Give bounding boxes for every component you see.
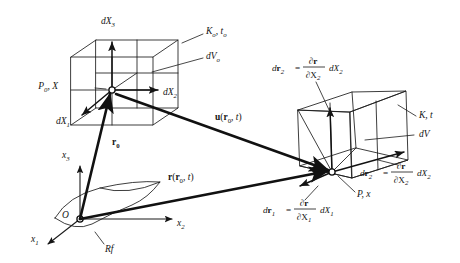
deformation-diagram-canvas: dX3 dX2 dX1 P0, X Ko, to dVo K, t dV P, … [0, 0, 460, 263]
dr2-up-arrow [330, 108, 332, 172]
label-axis-x3: x3 [61, 150, 70, 161]
label-dv: dV [419, 129, 431, 139]
deformed-node-link-1 [298, 110, 332, 172]
eq-upper-numerator: ∂r [309, 56, 318, 66]
eq-lower-trailing: dX2 [417, 168, 431, 179]
eq-lower-lhs: dr2 [360, 168, 373, 179]
eq-dr1-denominator: ∂X1 [297, 212, 312, 223]
cube-edge-tr [153, 40, 178, 57]
reference-point-node [109, 87, 115, 93]
eq-dr1-trailing: dX1 [320, 205, 334, 216]
label-ko-to: Ko, to [205, 26, 227, 37]
leader-rf [95, 232, 104, 244]
eq-lower-equals: = [383, 168, 388, 178]
eq-dr1-lhs: dr1 [263, 205, 275, 216]
label-vector-r: r(r0, t) [168, 172, 194, 183]
label-axis-x1: x1 [30, 234, 39, 245]
equation-dr2-lower: dr2 = ∂r ∂X2 dX2 [360, 161, 431, 186]
eq-lower-numerator: ∂r [397, 161, 406, 171]
leader-dvo [152, 58, 203, 72]
eq-dr1-numerator: ∂r [300, 198, 309, 208]
leader-ko-to [182, 34, 203, 43]
label-dvo: dVo [206, 51, 221, 62]
label-dx2: dX2 [163, 87, 178, 98]
cube-edge-tl [71, 40, 96, 57]
current-point-node [329, 169, 335, 175]
label-dx1: dX1 [56, 116, 70, 127]
eq-upper-equals: = [295, 63, 300, 73]
reference-frame-surface [55, 182, 160, 227]
label-p0-X: P0, X [37, 81, 59, 92]
leader-p-x [338, 176, 355, 192]
label-origin: O [62, 210, 69, 220]
eq-upper-denominator: ∂X2 [306, 70, 321, 81]
leader-p0 [95, 88, 106, 89]
deformation-figure: dX3 dX2 dX1 P0, X Ko, to dVo K, t dV P, … [0, 0, 460, 263]
leader-dr2-upper [316, 82, 330, 112]
eq-lower-denominator: ∂X2 [394, 175, 409, 186]
leader-dr2-lower [378, 160, 398, 165]
vector-u-r0-t [116, 94, 328, 170]
label-k-t: K, t [418, 110, 433, 120]
label-p-x: P, x [356, 189, 371, 199]
equation-dr1: dr1 = ∂r ∂X1 dX1 [263, 198, 334, 223]
label-rf: Rf [104, 244, 115, 254]
label-vector-r0: r0 [112, 137, 120, 148]
rf-surface-patch [55, 182, 160, 227]
axis-x1 [48, 219, 80, 244]
eq-dr1-equals: = [286, 205, 291, 215]
cube-edge-bl [71, 108, 96, 125]
label-axis-x2: x2 [176, 218, 185, 229]
equation-dr2-upper: dr2 = ∂r ∂X2 dX2 [272, 56, 343, 81]
label-vector-u: u(r0, t) [215, 112, 242, 123]
cube-internal-diagonal [112, 73, 137, 90]
leader-dv [365, 135, 414, 140]
eq-upper-lhs: dr2 [272, 63, 285, 74]
eq-upper-trailing: dX2 [329, 63, 343, 74]
label-dx3: dX3 [101, 16, 116, 27]
reference-cube [71, 40, 178, 125]
deformed-internal-diag [352, 92, 356, 148]
